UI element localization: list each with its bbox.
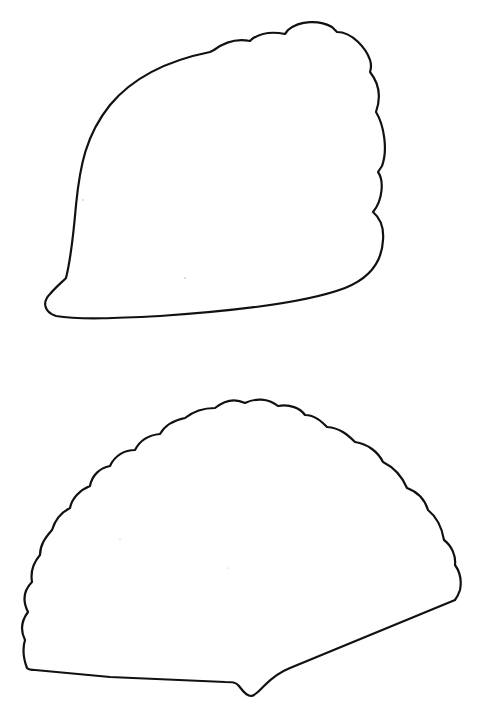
top-shell-outline — [45, 22, 385, 318]
bottom-fan-outline — [22, 400, 461, 696]
scan-speck — [184, 277, 186, 279]
scan-speck — [227, 567, 228, 568]
coloring-template-canvas — [0, 0, 482, 710]
scan-speck — [119, 538, 120, 539]
scan-speck — [82, 199, 84, 201]
